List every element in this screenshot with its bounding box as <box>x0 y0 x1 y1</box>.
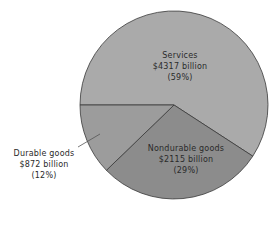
durable-goods-label: Durable goods $872 billion (12%) <box>4 148 84 181</box>
nondurable-goods-label: Nondurable goods $2115 billion (29%) <box>134 143 238 176</box>
services-name: Services <box>148 50 212 61</box>
nondurable-goods-value: $2115 billion <box>134 154 238 165</box>
durable-goods-name: Durable goods <box>4 148 84 159</box>
services-label: Services $4317 billion (59%) <box>148 50 212 83</box>
nondurable-goods-percent: (29%) <box>134 165 238 176</box>
nondurable-goods-name: Nondurable goods <box>134 143 238 154</box>
durable-goods-value: $872 billion <box>4 159 84 170</box>
durable-goods-percent: (12%) <box>4 170 84 181</box>
services-value: $4317 billion <box>148 61 212 72</box>
services-percent: (59%) <box>148 72 212 83</box>
